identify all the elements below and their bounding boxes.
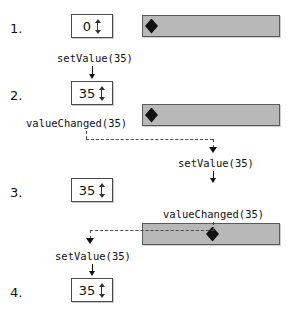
label-setvalue-to-spinbox-1: setValue(35): [57, 52, 133, 64]
spinbox-step-2[interactable]: 35: [71, 81, 113, 105]
diagram-canvas: 1. 0 setValue(35) 2. 35 valueChanged(35)…: [0, 0, 297, 311]
spinbox-value-step-3: 35: [79, 184, 96, 197]
spinbox-value-step-2: 35: [79, 87, 96, 100]
label-setvalue-to-slider: setValue(35): [178, 157, 254, 169]
spin-up-down-arrows-icon[interactable]: [98, 183, 105, 198]
spinbox-value-step-1: 0: [83, 20, 91, 33]
spin-up-down-arrows-icon[interactable]: [98, 86, 105, 101]
slider-step-1[interactable]: [142, 15, 280, 37]
diamond-handle-icon[interactable]: [145, 19, 158, 34]
slider-step-2[interactable]: [142, 104, 280, 126]
diamond-handle-icon[interactable]: [145, 108, 158, 123]
slider-step-3[interactable]: [142, 223, 280, 245]
step-number-2: 2.: [10, 89, 22, 102]
dashed-stub-from-slider: [213, 222, 214, 230]
spin-up-down-arrows-icon[interactable]: [98, 283, 105, 298]
dashed-line-slider-to-spinbox: [90, 230, 214, 231]
dashed-arrowhead-to-spinbox: [86, 238, 94, 244]
spinbox-step-3[interactable]: 35: [71, 178, 113, 202]
dashed-arrowhead-to-slider: [209, 147, 217, 153]
label-setvalue-to-spinbox-2: setValue(35): [55, 250, 131, 262]
spin-up-down-arrows-icon[interactable]: [94, 19, 101, 34]
spinbox-step-4[interactable]: 35: [71, 278, 113, 302]
label-valuechanged-from-slider: valueChanged(35): [163, 208, 264, 220]
spinbox-step-1[interactable]: 0: [71, 14, 113, 38]
spinbox-value-step-4: 35: [79, 284, 96, 297]
dashed-line-spinbox-to-slider: [86, 139, 213, 140]
step-number-4: 4.: [10, 286, 22, 299]
step-number-3: 3.: [10, 186, 22, 199]
label-valuechanged-from-spinbox: valueChanged(35): [26, 117, 127, 129]
step-number-1: 1.: [10, 22, 22, 35]
dashed-stub-from-spinbox: [86, 131, 87, 139]
